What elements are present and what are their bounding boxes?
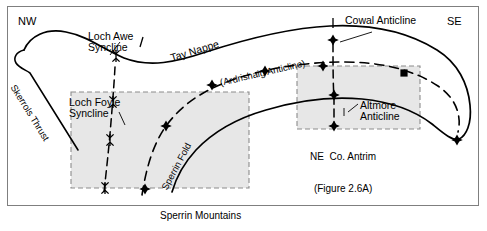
label-altmore-anticline: Altmore Anticline <box>360 100 400 123</box>
orientation-label-nw: NW <box>18 16 36 28</box>
loch-awe-axis-tick <box>140 37 143 47</box>
inset-title-sperrin-mountains: Sperrin Mountains <box>160 211 241 222</box>
label-loch-foyle-syncline: Loch Foyle Syncline <box>69 97 120 120</box>
anticline-marker-sperrin-upper <box>206 80 218 91</box>
inset-caption-ne-co-antrim: NE Co. Antrim (Figure 2.6A) <box>310 130 376 216</box>
label-cowal-anticline: Cowal Anticline <box>345 15 416 26</box>
inset-title-ne-co-antrim: NE Co. Antrim <box>310 152 376 163</box>
label-loch-awe-syncline: Loch Awe Syncline <box>88 31 133 54</box>
inset-caption-sperrin-mountains: Sperrin Mountains (Figure 2.5) <box>160 189 241 231</box>
anticline-marker-cowal <box>327 35 339 46</box>
anticline-marker-east-square <box>400 69 407 76</box>
inset-figref-ne-co-antrim: (Figure 2.6A) <box>310 184 376 195</box>
leader-cowal <box>340 32 372 42</box>
geological-cross-section-figure: NW SE Loch Awe Syncline Tay Nappe Skerro… <box>0 0 487 231</box>
anticline-marker-fold-nose <box>451 135 463 146</box>
orientation-label-se: SE <box>447 16 462 28</box>
